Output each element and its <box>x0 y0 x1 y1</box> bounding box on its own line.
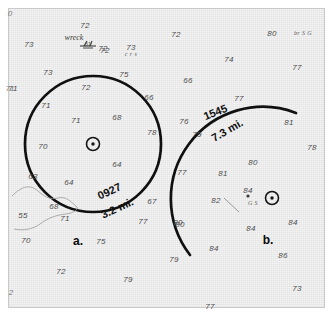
sounding-value: 84 <box>246 224 256 233</box>
sounding-value: 66 <box>144 93 154 102</box>
sounding-value: 79 <box>123 275 133 284</box>
sounding-value: 67 <box>147 197 157 206</box>
sounding-value: 75 <box>119 70 129 79</box>
sounding-value: 80 <box>173 218 183 227</box>
figure-label-a: a. <box>73 234 83 248</box>
sounding-value: 71 <box>60 214 70 223</box>
sounding-value: 84 <box>243 186 253 195</box>
sounding-value: 77 <box>138 217 148 226</box>
sounding-value: 73 <box>292 284 302 293</box>
wreck-label: wreck <box>65 33 84 42</box>
sounding-value: 80 <box>267 29 277 38</box>
sounding-value: 72 <box>171 30 181 39</box>
sounding-wreck-adjacent: 72 <box>98 44 108 53</box>
bottom-type-crs: c r s <box>125 51 137 57</box>
figure-label-b: b. <box>263 233 274 247</box>
sounding-value: 63 <box>28 172 38 181</box>
sounding-value: 68 <box>49 202 59 211</box>
sounding-value: 78 <box>307 143 317 152</box>
sounding-value: 81 <box>218 169 228 178</box>
sounding-value: 81 <box>284 118 294 127</box>
edge-mark-bottom-left: 2 <box>9 288 13 297</box>
sounding-value: 70 <box>38 142 48 151</box>
sounding-value: 82 <box>211 196 221 205</box>
sounding-value: 72 <box>80 21 90 30</box>
wreck-depth-label: 61 <box>85 41 92 47</box>
sounding-value: 86 <box>278 251 288 260</box>
sounding-value: 64 <box>112 160 122 169</box>
sounding-value: 73 <box>24 40 34 49</box>
chart-paper-background <box>8 8 325 308</box>
sounding-value: 77 <box>234 94 244 103</box>
chart-figure: 7372727372807375747771726666717168767779… <box>0 0 333 318</box>
sounding-value: 64 <box>64 178 74 187</box>
edge-mark-top-left: 0 <box>8 9 12 18</box>
sounding-value: 76 <box>179 117 189 126</box>
sounding-value: 84 <box>288 218 298 227</box>
sounding-value: 70 <box>21 236 31 245</box>
sounding-value: 71 <box>41 101 51 110</box>
sounding-value: 73 <box>43 68 53 77</box>
sounding-value: 79 <box>192 130 202 139</box>
sounding-value: 74 <box>224 55 234 64</box>
sounding-value: 77 <box>205 302 215 311</box>
sounding-value: 80 <box>248 158 258 167</box>
sounding-value: 77 <box>177 168 187 177</box>
sounding-value: 78 <box>147 128 157 137</box>
sounding-value: 71 <box>71 116 81 125</box>
sounding-value: 79 <box>169 255 179 264</box>
bottom-type-brsg: br S G <box>294 30 312 36</box>
sounding-value: 75 <box>96 237 106 246</box>
sounding-value: 66 <box>183 76 193 85</box>
sounding-value: 72 <box>81 83 91 92</box>
bottom-type-gs: G S <box>248 200 258 206</box>
sounding-value: 84 <box>209 244 219 253</box>
edge-mark-left: 71 <box>6 84 15 93</box>
sounding-value: 55 <box>18 211 28 220</box>
sounding-value: 77 <box>292 63 302 72</box>
sounding-value: 68 <box>112 113 122 122</box>
sounding-value: 72 <box>56 267 66 276</box>
